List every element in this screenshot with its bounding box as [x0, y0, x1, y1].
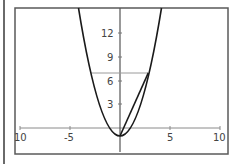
y-tick-label: 12: [101, 28, 114, 39]
x-tick-label: 5: [167, 132, 173, 143]
chart-plot: 10 -5 5 10 3 6 9 12: [0, 0, 237, 164]
x-tick-label: 10: [14, 132, 27, 143]
x-tick-label: 10: [213, 132, 226, 143]
y-tick-label: 3: [107, 99, 113, 110]
y-tick-label: 9: [107, 52, 113, 63]
y-tick-label: 6: [107, 76, 113, 87]
x-tick-label: -5: [64, 132, 74, 143]
